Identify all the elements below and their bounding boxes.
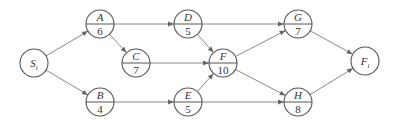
node-label-A: A <box>88 11 112 23</box>
node-label-B: B <box>88 89 112 101</box>
node-value-E: 5 <box>176 103 200 115</box>
node-label-E: E <box>176 89 200 101</box>
node-label-F: F <box>211 50 235 62</box>
node-value-D: 5 <box>176 25 200 37</box>
node-value-A: 6 <box>88 25 112 37</box>
node-value-F: 10 <box>211 64 235 76</box>
node-value-C: 7 <box>124 64 148 76</box>
edge-S-B <box>46 70 88 95</box>
node-label-H: H <box>286 89 310 101</box>
node-value-B: 4 <box>88 103 112 115</box>
node-value-H: 8 <box>286 103 310 115</box>
node-label-C: C <box>124 50 148 62</box>
edge-F-G <box>235 30 285 56</box>
edge-F-H <box>235 69 285 95</box>
node-label-D: D <box>176 11 200 23</box>
node-label-S: Si <box>22 57 46 74</box>
edge-G-Fi <box>310 31 352 54</box>
edge-S-A <box>46 31 88 56</box>
activity-network-diagram: SiA6B4C7D5E5F10G7H8Fi <box>0 0 395 126</box>
edge-H-Fi <box>310 68 353 94</box>
node-label-Fi: Fi <box>353 55 377 72</box>
node-value-G: 7 <box>286 25 310 37</box>
node-label-G: G <box>286 11 310 23</box>
